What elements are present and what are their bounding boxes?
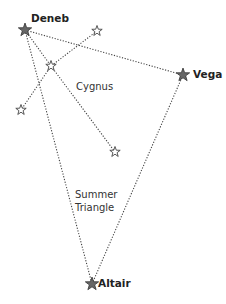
cygnus-label: Cygnus <box>76 81 113 92</box>
deneb-label: Deneb <box>31 13 69 24</box>
summer-triangle-label-line1: Summer <box>75 189 117 200</box>
cygnus-center-star-icon <box>46 61 56 71</box>
line-vega-altair <box>92 75 183 284</box>
altair-star-icon <box>85 277 98 290</box>
summer-triangle-label-line2: Triangle <box>75 202 114 213</box>
connecting-lines <box>21 30 183 284</box>
deneb-star-icon <box>18 23 31 36</box>
vega-label: Vega <box>193 69 222 80</box>
vega-star-icon <box>176 68 189 81</box>
line-center-wing-sw <box>21 66 51 110</box>
altair-label: Altair <box>98 278 131 289</box>
line-deneb-altair <box>25 30 92 284</box>
line-center-tail <box>51 66 115 152</box>
cygnus-wing-sw-star-icon <box>16 105 26 115</box>
bright-stars <box>18 23 189 290</box>
cygnus-wing-ne-star-icon <box>92 26 102 36</box>
star-diagram <box>0 0 226 304</box>
